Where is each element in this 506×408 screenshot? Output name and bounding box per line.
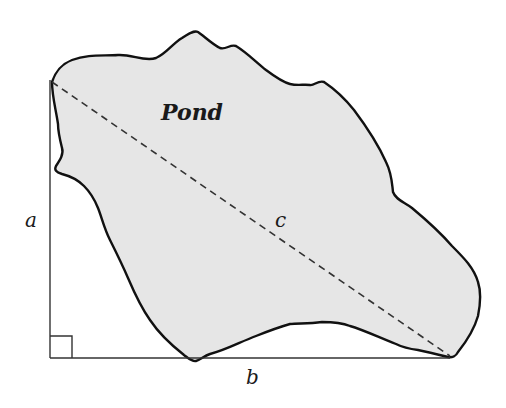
- diagram-canvas: [0, 0, 506, 408]
- label-b: b: [246, 367, 259, 387]
- pond-shape: [52, 31, 480, 361]
- pond-diagram: Pond a b c: [0, 0, 506, 408]
- label-a: a: [25, 210, 37, 230]
- pond-label: Pond: [161, 101, 223, 123]
- right-angle-marker: [50, 336, 72, 358]
- label-c: c: [275, 210, 286, 230]
